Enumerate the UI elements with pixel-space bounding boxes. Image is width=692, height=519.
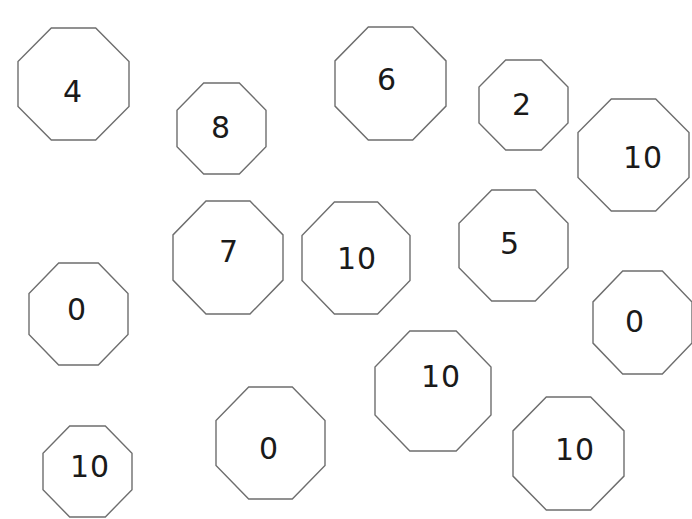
octagon-card: 10 [375,331,491,451]
octagon-number: 5 [500,229,520,259]
octagon-card: 5 [459,190,568,301]
octagon-number: 10 [337,244,377,274]
octagon-card: 10 [513,397,624,510]
octagon-number: 10 [555,435,595,465]
octagon-number: 10 [623,143,663,173]
octagon-number: 7 [219,237,239,267]
octagon-number: 10 [421,362,461,392]
octagon-card: 0 [29,263,128,365]
octagon-number: 8 [211,113,231,143]
octagon-card: 0 [216,387,325,499]
octagon-number: 6 [377,65,397,95]
octagon-card: 6 [335,27,446,140]
octagon-number: 2 [512,90,532,120]
octagon-card: 10 [302,202,410,314]
octagon-number: 4 [63,77,83,107]
octagon-card: 2 [479,60,568,150]
octagon-card: 4 [18,28,129,140]
octagon-number: 0 [67,295,87,325]
octagon-number: 0 [259,434,279,464]
octagon-number: 0 [625,307,645,337]
octagon-card: 10 [578,99,689,211]
octagon-card: 7 [173,201,283,314]
octagon-number: 10 [70,452,110,482]
octagon-card: 10 [43,426,132,517]
octagon-card: 0 [593,271,692,374]
octagon-card: 8 [177,83,266,174]
